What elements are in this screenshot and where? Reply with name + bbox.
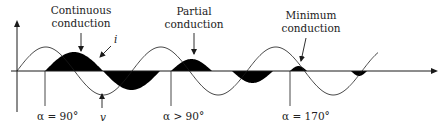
region-title-partial-line2: conduction bbox=[165, 18, 224, 30]
region-title-minimum-line2: conduction bbox=[282, 22, 341, 34]
region-title-partial-line1: Partial bbox=[176, 5, 212, 17]
current-lobe-continuous-negative bbox=[103, 71, 160, 90]
current-lobe-partial-positive bbox=[171, 59, 212, 71]
current-label: i bbox=[114, 33, 117, 45]
firing-angle-label-minimum: α = 170° bbox=[282, 110, 330, 122]
firing-angle-label-partial: α > 90° bbox=[163, 110, 204, 122]
region-titles: ContinuousconductionPartialconductionMin… bbox=[51, 4, 341, 61]
current-arrow-icon bbox=[100, 46, 111, 57]
firing-angle-label-continuous: α = 90° bbox=[37, 110, 78, 122]
current-lobe-partial-negative bbox=[232, 71, 273, 83]
region-title-continuous-line2: conduction bbox=[52, 17, 111, 29]
region-title-minimum-line1: Minimum bbox=[286, 9, 337, 21]
y-axis-arrow-icon bbox=[14, 20, 20, 27]
x-axis-arrow-icon bbox=[431, 68, 438, 74]
current-lobe-minimum-positive bbox=[290, 66, 307, 71]
region-title-continuous-line1: Continuous bbox=[51, 4, 112, 16]
voltage-label: v bbox=[100, 111, 106, 123]
thyristor-waveform-diagram: α = 90°α > 90°α = 170° Continuousconduct… bbox=[0, 0, 442, 127]
current-lobe-continuous-positive bbox=[45, 52, 103, 71]
region-arrow-minimum-icon bbox=[301, 38, 306, 61]
